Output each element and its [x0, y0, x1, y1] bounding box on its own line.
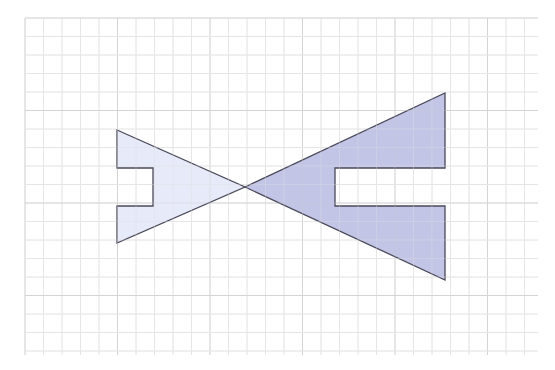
grid-diagram — [0, 0, 555, 370]
large-shape — [245, 93, 445, 280]
shapes-layer — [117, 93, 445, 280]
